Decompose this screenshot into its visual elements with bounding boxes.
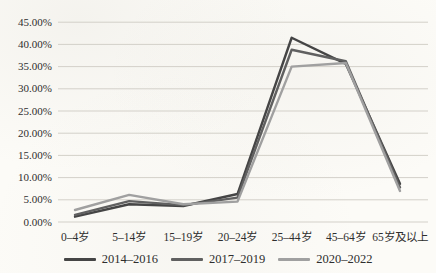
- legend-label: 2017–2019: [209, 253, 265, 266]
- y-axis-tick-label: 15.00%: [18, 149, 52, 161]
- chart-plot-area: 0.00%5.00%10.00%15.00%20.00%25.00%30.00%…: [0, 0, 436, 248]
- legend-line-swatch-icon: [64, 258, 96, 261]
- legend-line-swatch-icon: [278, 258, 310, 261]
- y-axis-tick-labels: 0.00%5.00%10.00%15.00%20.00%25.00%30.00%…: [18, 16, 52, 228]
- x-axis-tick-label: 65岁及以上: [372, 230, 428, 243]
- series-line-2014-2016: [75, 38, 400, 217]
- y-axis-tick-label: 20.00%: [18, 127, 52, 139]
- x-axis-tick-label: 20–24岁: [218, 230, 258, 243]
- y-axis-tick-label: 30.00%: [18, 82, 52, 94]
- y-axis-tick-label: 40.00%: [18, 38, 52, 50]
- x-axis-tick-labels: 0–4岁5–14岁15–19岁20–24岁25–44岁45–64岁65岁及以上: [61, 230, 428, 243]
- series-line-2020-2022: [75, 63, 400, 210]
- legend-item: 2014–2016: [64, 253, 158, 266]
- series-lines: [75, 38, 400, 217]
- x-axis-tick-label: 0–4岁: [61, 230, 89, 243]
- y-axis-tick-label: 35.00%: [18, 60, 52, 72]
- chart-legend: 2014–20162017–20192020–2022: [0, 248, 436, 270]
- x-axis-tick-label: 45–64岁: [326, 230, 366, 243]
- y-axis-tick-label: 25.00%: [18, 105, 52, 117]
- y-axis-tick-label: 0.00%: [24, 216, 52, 228]
- y-axis-tick-label: 5.00%: [24, 193, 52, 205]
- legend-item: 2020–2022: [278, 253, 372, 266]
- legend-label: 2014–2016: [102, 253, 158, 266]
- y-axis-tick-label: 10.00%: [18, 171, 52, 183]
- legend-line-swatch-icon: [171, 258, 203, 261]
- legend-item: 2017–2019: [171, 253, 265, 266]
- x-axis-tick-label: 15–19岁: [163, 230, 203, 243]
- age-distribution-line-chart: 0.00%5.00%10.00%15.00%20.00%25.00%30.00%…: [0, 0, 436, 273]
- x-axis-tick-label: 25–44岁: [272, 230, 312, 243]
- x-axis-tick-label: 5–14岁: [112, 230, 146, 243]
- legend-label: 2020–2022: [316, 253, 372, 266]
- y-axis-tick-label: 45.00%: [18, 16, 52, 28]
